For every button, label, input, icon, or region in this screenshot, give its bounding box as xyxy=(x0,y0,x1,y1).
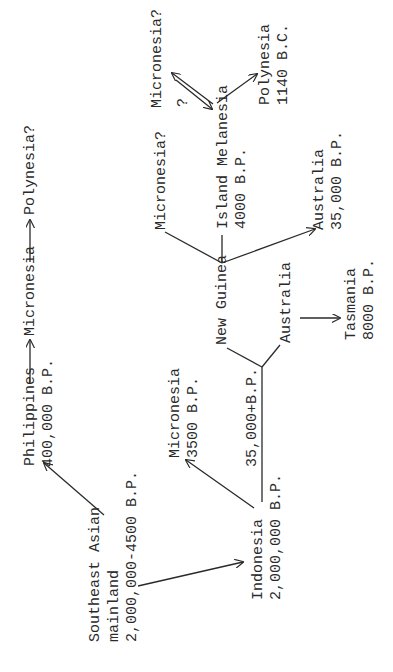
node-tasmania: Tasmania xyxy=(343,268,360,340)
edge-new-guinea-to-micronesia-q xyxy=(165,232,222,263)
node-australia-35000-date: 35,000 B.P. xyxy=(329,131,346,230)
arrow-new-guinea-to-australia xyxy=(222,229,315,263)
node-philippines: Philippines xyxy=(22,367,39,466)
node-micronesia-question-top: Micronesia? xyxy=(149,9,166,108)
node-polynesia-question: Polynesia? xyxy=(22,125,39,215)
migration-diagram: Polynesia? Micronesia Philippines 400,00… xyxy=(0,0,393,672)
node-micronesia-3500: Micronesia xyxy=(167,368,184,458)
node-island-melanesia: Island Melanesia xyxy=(215,85,232,229)
node-indonesia: Indonesia xyxy=(250,519,267,600)
node-se-asia-line1: Southeast Asian xyxy=(87,507,104,642)
node-polynesia: Polynesia xyxy=(257,24,274,105)
edge-label-question-mark: ? xyxy=(175,98,192,107)
node-australia-35000: Australia xyxy=(311,149,328,230)
node-micronesia-question-mid: Micronesia? xyxy=(153,131,170,230)
node-se-asia-date: 2,000,000-4500 B.P. xyxy=(124,471,141,642)
node-polynesia-date: 1140 B.C. xyxy=(275,24,292,105)
edge-trunk-to-new-guinea xyxy=(227,348,262,367)
node-island-melanesia-date: 4000 B.P. xyxy=(233,148,250,229)
node-new-guinea: New Guinea xyxy=(214,255,231,345)
arrow-se-asia-to-indonesia xyxy=(138,562,243,586)
edge-trunk-to-australia xyxy=(262,345,280,367)
node-tasmania-date: 8000 B.P. xyxy=(361,259,378,340)
node-micronesia-chain: Micronesia xyxy=(22,246,39,336)
node-se-asia-line2: mainland xyxy=(106,570,123,642)
node-micronesia-3500-date: 3500 B.P. xyxy=(185,377,202,458)
arrow-se-asia-to-philippines xyxy=(44,463,104,515)
edge-label-35000: 35,000+B.P. xyxy=(244,368,261,467)
node-indonesia-date: 2,000,000 B.P. xyxy=(268,474,285,600)
node-philippines-date: 400,000 B.P. xyxy=(40,359,57,467)
node-australia-branch: Australia xyxy=(278,262,295,343)
